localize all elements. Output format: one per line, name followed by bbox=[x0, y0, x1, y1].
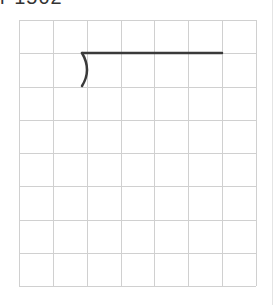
drawing-grid[interactable] bbox=[0, 0, 274, 305]
drawn-arc-stroke bbox=[82, 53, 87, 86]
grid-lines bbox=[19, 20, 257, 287]
